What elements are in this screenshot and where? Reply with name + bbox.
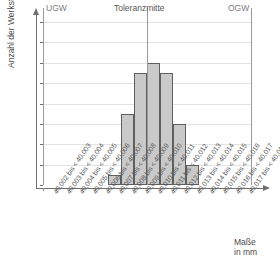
- bar: [173, 124, 186, 185]
- y-axis-line: [36, 14, 37, 189]
- x-axis-arrow-icon: [263, 185, 270, 191]
- y-axis-tick-mark: [40, 185, 43, 186]
- ogw-limit-line: [251, 8, 252, 185]
- bar: [121, 114, 134, 185]
- bar: [108, 175, 121, 185]
- plot-area: 0246810121416 Anzahl der Werkstücke: [43, 22, 251, 185]
- bar: [147, 63, 160, 185]
- ogw-label: OGW: [228, 4, 249, 13]
- x-axis-title-line2: in mm: [234, 247, 257, 257]
- x-axis-title-line1: Maße: [234, 237, 257, 247]
- bar: [160, 73, 173, 185]
- bar: [186, 165, 199, 185]
- histogram-chart: 0246810121416 Anzahl der Werkstücke UGW …: [0, 0, 280, 275]
- y-axis-title: Anzahl der Werkstücke: [7, 0, 16, 68]
- ugw-limit-line: [43, 8, 44, 185]
- x-axis-title: Maße in mm: [234, 237, 257, 257]
- toleranzmitte-line: [147, 8, 148, 185]
- bar: [134, 73, 147, 185]
- toleranzmitte-label: Toleranzmitte: [114, 4, 165, 13]
- y-axis-arrow-icon: [33, 8, 39, 15]
- x-axis-line: [36, 188, 264, 189]
- ugw-label: UGW: [46, 4, 67, 13]
